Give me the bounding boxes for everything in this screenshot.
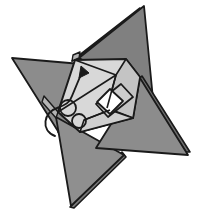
origami-figure-container: [0, 0, 198, 213]
origami-figure-svg: [0, 0, 198, 213]
